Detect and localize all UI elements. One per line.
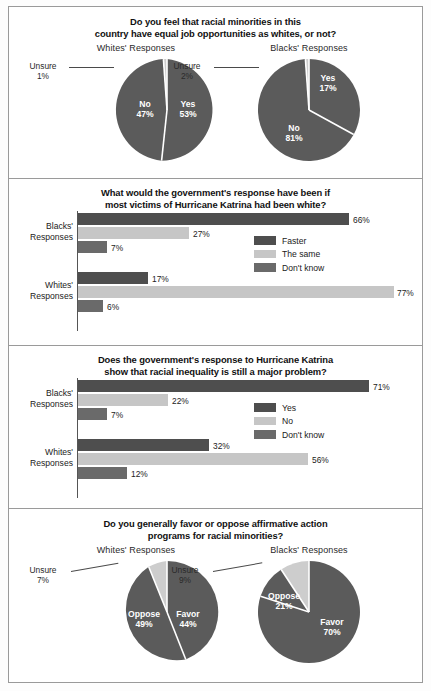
legend-label-no: No: [282, 416, 293, 426]
unsure-pct: 1%: [37, 71, 49, 81]
slice-value-yes: 17%: [319, 83, 337, 93]
legend-item-the-same: The same: [254, 249, 324, 260]
legend-item-faster: Faster: [254, 235, 324, 246]
group-label-whites-line2: Responses: [30, 458, 73, 468]
bar-value-blacks-faster: 66%: [353, 215, 370, 225]
leader-line-unsure-right: [213, 562, 262, 572]
slice-label-no: No: [288, 123, 299, 133]
bar-value-blacks-the-same: 27%: [193, 229, 210, 239]
section1-right-subtitle: Blacks' Responses: [234, 43, 384, 53]
bar-value-whites-dont-know: 12%: [131, 469, 148, 479]
unsure-pct: 9%: [179, 575, 191, 585]
unsure-pct: 7%: [37, 575, 49, 585]
pie-blacks-job: Yes 17% No 81%: [256, 57, 362, 163]
group-label-blacks: Blacks' Responses: [9, 221, 73, 242]
group-label-blacks-line1: Blacks': [46, 221, 73, 231]
slice-label-oppose: Oppose: [268, 591, 300, 601]
section2-title-line2: most victims of Hurricane Katrina had be…: [105, 199, 326, 210]
legend-label-faster: Faster: [282, 236, 306, 246]
bar-value-whites-yes: 32%: [213, 441, 230, 451]
section1-title-line1: Do you feel that racial minorities in th…: [130, 16, 301, 27]
pie-blacks-job-svg: Yes 17% No 81%: [256, 57, 362, 163]
group-label-whites-line1: Whites': [45, 447, 73, 457]
pie-blacks-job-unsure-label: Unsure 2%: [161, 61, 213, 81]
legend-swatch-yes: [254, 403, 276, 412]
bar-value-blacks-dont-know: 7%: [111, 243, 123, 253]
legend-item-dont-know: Don't know: [254, 429, 324, 440]
section-racial-inequality-problem: Does the government's response to Hurric…: [9, 346, 422, 508]
unsure-word: Unsure: [172, 565, 199, 575]
section4-left-subtitle: Whites' Responses: [61, 545, 211, 555]
bar-value-whites-faster: 17%: [152, 274, 169, 284]
bar-value-blacks-yes: 71%: [373, 382, 390, 392]
bar-blacks-dont-know: [78, 241, 107, 253]
section2-title: What would the government's response hav…: [9, 179, 422, 212]
bar-blacks-the-same: [78, 227, 189, 239]
slice-value-no: 47%: [136, 109, 154, 119]
unsure-pct: 2%: [181, 71, 193, 81]
infographic-page: Do you feel that racial minorities in th…: [0, 0, 431, 691]
slice-value-favor: 44%: [179, 619, 197, 629]
bar-blacks-faster: [78, 213, 349, 225]
bar-whites-dont-know: [78, 300, 103, 312]
section4-right-subtitle: Blacks' Responses: [234, 545, 384, 555]
bar-value-whites-the-same: 77%: [397, 288, 414, 298]
slice-value-oppose: 21%: [275, 601, 293, 611]
bar-value-blacks-no: 22%: [172, 396, 189, 406]
section-affirmative-action: Do you generally favor or oppose affirma…: [9, 509, 422, 683]
group-label-whites-line2: Responses: [30, 291, 73, 301]
legend-label-yes: Yes: [282, 403, 296, 413]
group-label-blacks-line1: Blacks': [46, 388, 73, 398]
section4-title: Do you generally favor or oppose affirma…: [9, 509, 422, 543]
legend-item-yes: Yes: [254, 402, 324, 413]
slice-value-no: 81%: [285, 133, 303, 143]
section-katrina-response-speed: What would the government's response hav…: [9, 179, 422, 344]
section3-title: Does the government's response to Hurric…: [9, 346, 422, 379]
section3-title-line2: show that racial inequality is still a m…: [104, 366, 326, 377]
leader-line-unsure-right: [214, 67, 259, 68]
legend-swatch-dont-know: [254, 263, 276, 272]
bar-value-whites-dont-know: 6%: [107, 302, 119, 312]
section2-legend: Faster The same Don't know: [254, 235, 324, 276]
bar-blacks-dont-know: [78, 408, 107, 420]
legend-item-dont-know: Don't know: [254, 262, 324, 273]
section1-title-line2: country have equal job opportunities as …: [95, 28, 336, 39]
unsure-word: Unsure: [30, 61, 57, 71]
bar-whites-faster: [78, 272, 148, 284]
unsure-word: Unsure: [174, 61, 201, 71]
group-label-blacks: Blacks' Responses: [9, 388, 73, 409]
legend-swatch-no: [254, 417, 276, 426]
legend-swatch-faster: [254, 236, 276, 245]
section1-left-subtitle: Whites' Responses: [61, 43, 211, 53]
bar-whites-yes: [78, 439, 209, 451]
slice-label-oppose: Oppose: [128, 609, 160, 619]
slice-label-yes: Yes: [181, 99, 196, 109]
pie-blacks-affirmative-svg: Favor 70% Oppose 21%: [256, 559, 362, 665]
section1-title: Do you feel that racial minorities in th…: [9, 7, 422, 41]
section4-title-line1: Do you generally favor or oppose affirma…: [103, 518, 327, 529]
legend-label-the-same: The same: [282, 249, 320, 259]
section2-title-line1: What would the government's response hav…: [101, 187, 330, 198]
group-label-whites: Whites' Responses: [9, 280, 73, 301]
slice-value-oppose: 49%: [135, 619, 153, 629]
pie-whites-affirmative-unsure-label: Unsure 7%: [17, 565, 69, 585]
leader-line-unsure-left: [71, 563, 118, 572]
slice-value-favor: 70%: [323, 627, 341, 637]
slice-label-favor: Favor: [320, 617, 344, 627]
section4-title-line2: programs for racial minorities?: [148, 530, 283, 541]
slice-value-yes: 53%: [179, 109, 197, 119]
legend-label-dont-know: Don't know: [282, 430, 324, 440]
legend-item-no: No: [254, 416, 324, 427]
bar-value-blacks-dont-know: 7%: [111, 410, 123, 420]
bar-blacks-no: [78, 394, 168, 406]
legend-swatch-the-same: [254, 250, 276, 259]
bar-whites-dont-know: [78, 467, 127, 479]
section-job-opportunities: Do you feel that racial minorities in th…: [9, 7, 422, 177]
group-label-whites-line1: Whites': [45, 280, 73, 290]
legend-label-dont-know: Don't know: [282, 263, 324, 273]
pie-whites-job-unsure-label: Unsure 1%: [17, 61, 69, 81]
pie-blacks-affirmative-unsure-label: Unsure 9%: [159, 565, 211, 585]
section3-title-line1: Does the government's response to Hurric…: [98, 354, 333, 365]
leader-line-unsure-left: [69, 67, 114, 68]
legend-swatch-dont-know: [254, 430, 276, 439]
